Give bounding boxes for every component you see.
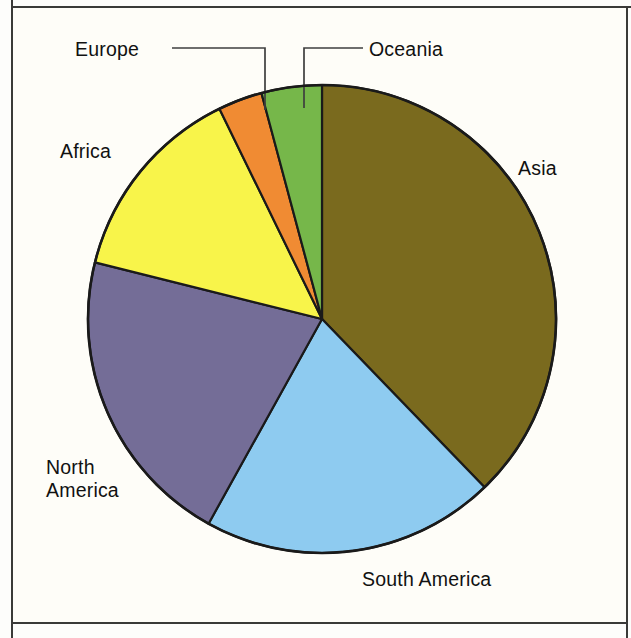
pie-label-south-america: South America (362, 568, 491, 591)
pie-chart-figure (0, 0, 631, 638)
chart-page: Europe Oceania Africa Asia NorthAmerica … (0, 0, 631, 638)
pie-label-north-america: NorthAmerica (46, 456, 119, 502)
pie-label-asia: Asia (518, 157, 557, 180)
pie-label-oceania: Oceania (369, 38, 443, 61)
pie-label-africa: Africa (60, 140, 111, 163)
pie-label-north-america-line2: America (46, 479, 119, 501)
pie-label-europe: Europe (75, 38, 139, 61)
pie-label-north-america-line1: North (46, 456, 95, 478)
pie-slice-group (88, 85, 556, 553)
